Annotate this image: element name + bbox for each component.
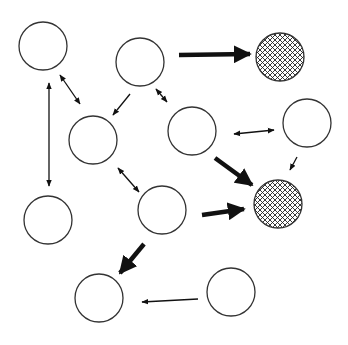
node-A: [19, 22, 67, 70]
hatched-node-C: [256, 33, 304, 81]
arrow-F-G: [290, 157, 297, 170]
node-E: [168, 107, 216, 155]
hatched-node-G: [254, 180, 302, 228]
arrow-K-J: [142, 299, 198, 302]
bidirectional-arrow-A-D: [60, 75, 80, 104]
bidirectional-arrow-E-F: [234, 130, 274, 134]
nodes-layer: [19, 22, 331, 322]
bidirectional-arrow-B-E: [156, 89, 167, 102]
arrow-B-C: [179, 54, 250, 55]
arrow-I-G: [202, 209, 244, 215]
node-F: [283, 99, 331, 147]
node-H: [24, 196, 72, 244]
bidirectional-arrow-D-I: [118, 168, 139, 192]
edges-layer: [49, 54, 297, 302]
arrow-E-G: [215, 158, 252, 185]
node-K: [207, 268, 255, 316]
arrow-B-D: [113, 94, 130, 115]
arrow-I-J: [120, 244, 144, 273]
node-D: [69, 116, 117, 164]
node-I: [138, 186, 186, 234]
network-diagram: [0, 0, 348, 345]
node-J: [75, 274, 123, 322]
node-B: [116, 38, 164, 86]
